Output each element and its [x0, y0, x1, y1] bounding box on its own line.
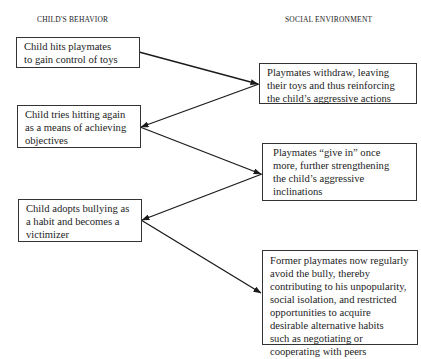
box-text-line: more, further strengthening: [273, 159, 410, 172]
arrow-hits-to-withdraw: [139, 52, 258, 84]
box-text-line: to gain control of toys: [24, 53, 133, 66]
box-text-line: avoid the bully, thereby: [270, 267, 411, 280]
box-text-line: their toys and thus reinforcing: [267, 79, 410, 92]
box-child-adopts-bullying: Child adopts bullying as a habit and bec…: [18, 199, 142, 242]
box-text-line: social isolation, and restricted: [270, 293, 411, 306]
header-childs-behavior: CHILD'S BEHAVIOR: [37, 15, 108, 24]
box-text-line: Playmates withdraw, leaving: [267, 66, 410, 79]
box-text-line: the child’s aggressive: [273, 172, 410, 185]
box-text-line: opportunities to acquire: [270, 306, 411, 319]
box-text-line: objectives: [25, 134, 134, 147]
box-playmates-withdraw: Playmates withdraw, leaving their toys a…: [259, 63, 417, 104]
arrow-bullying-to-avoid: [141, 220, 261, 293]
box-text-line: Playmates “give in” once: [273, 146, 410, 159]
box-text-line: Former playmates now regularly: [270, 254, 411, 267]
box-text-line: cooperating with peers: [270, 345, 411, 358]
box-child-tries-again: Child tries hitting again as a means of …: [17, 105, 141, 148]
box-text-line: a habit and becomes a: [26, 215, 135, 228]
arrow-withdraw-to-tries: [141, 84, 259, 127]
box-text-line: contributing to his unpopularity,: [270, 280, 411, 293]
arrow-givein-to-bullying: [142, 174, 262, 220]
box-text-line: the child’s aggressive actions: [267, 92, 410, 105]
box-text-line: desirable alternative habits: [270, 319, 411, 332]
header-social-environment: SOCIAL ENVIRONMENT: [285, 15, 372, 24]
box-text-line: such as negotiating or: [270, 332, 411, 345]
box-text-line: inclinations: [273, 185, 410, 198]
box-text-line: Child adopts bullying as: [26, 202, 135, 215]
box-former-playmates-avoid: Former playmates now regularly avoid the…: [262, 250, 418, 345]
box-text-line: as a means of achieving: [25, 121, 134, 134]
box-playmates-give-in: Playmates “give in” once more, further s…: [262, 143, 417, 201]
box-text-line: Child hits playmates: [24, 40, 133, 53]
box-text-line: victimizer: [26, 228, 135, 241]
box-child-hits-playmates: Child hits playmates to gain control of …: [16, 37, 140, 68]
box-text-line: Child tries hitting again: [25, 108, 134, 121]
arrow-tries-to-givein: [140, 127, 261, 174]
